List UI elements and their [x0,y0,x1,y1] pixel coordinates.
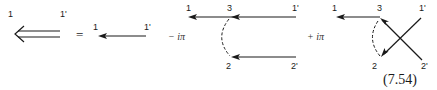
label-2-prime: 2' [421,61,428,71]
plus-i-pi-coefficient: + iπ [307,31,325,42]
label-1: 1 [93,22,98,32]
dashed-interaction-line [372,21,380,56]
feynman-diagram-equation: 1 1' = 1 1' − iπ 1 3 1' 2 2' + iπ 1 3 1'… [0,0,437,90]
label-3: 3 [227,3,232,13]
label-1-prime: 1' [292,3,299,13]
label-1-prime: 1' [419,3,426,13]
crossed-propagator-from-2-prime [382,20,422,60]
label-1: 1 [332,3,337,13]
equals-sign: = [76,27,83,42]
exchange-diagram: 1 3 1' 2 2' [332,3,428,71]
label-1-prime: 1' [144,22,151,32]
label-1: 1 [8,9,13,19]
ladder-diagram: 1 3 1' 2 2' [186,3,299,71]
label-2: 2 [226,61,231,71]
crossed-propagator-from-1-prime [384,18,421,54]
label-1-prime: 1' [60,9,67,19]
open-arrowhead-icon [15,26,24,42]
label-2: 2 [372,61,377,71]
dashed-interaction-line [222,19,230,56]
free-propagator: 1 1' [93,22,151,39]
label-1: 1 [186,3,191,13]
minus-i-pi-coefficient: − iπ [168,31,186,42]
label-2-prime: 2' [291,61,298,71]
equation-number: (7.54) [383,72,417,88]
arrowhead-icon [380,18,389,25]
arrowhead-icon [381,48,389,57]
lhs-double-propagator: 1 1' [8,9,67,42]
label-3: 3 [377,3,382,13]
